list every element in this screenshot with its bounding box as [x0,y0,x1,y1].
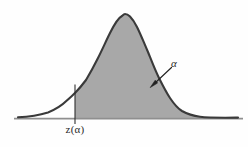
shaded-alpha-region [75,14,238,118]
alpha-label: α [171,58,177,69]
z-alpha-label: z(α) [0,124,150,135]
normal-curve-figure: z(α) α [0,0,248,147]
